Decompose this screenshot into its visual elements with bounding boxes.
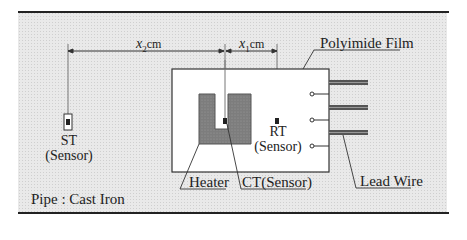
lead-wire-label: Lead Wire	[360, 174, 423, 189]
st-label: ST (Sensor)	[44, 134, 94, 163]
st-type: (Sensor)	[44, 149, 94, 163]
st-name: ST	[44, 134, 94, 148]
heater-label: Heater	[189, 175, 229, 190]
dimension-label-x1: x1cm	[239, 37, 264, 54]
rt-type: (Sensor)	[252, 140, 304, 154]
polyimide-film-label: Polyimide Film	[320, 36, 414, 51]
x1-unit: cm	[250, 37, 265, 51]
st-sensor	[64, 114, 72, 130]
pipe-material-label: Pipe : Cast Iron	[31, 192, 125, 207]
lead-wires	[329, 80, 368, 135]
dimension-label-x2: x2cm	[136, 37, 161, 54]
rt-name: RT	[252, 125, 304, 139]
x2-unit: cm	[147, 37, 162, 51]
ct-sensor-label: CT(Sensor)	[242, 175, 312, 190]
rt-label: RT (Sensor)	[252, 125, 304, 154]
ct-sensor	[223, 118, 227, 124]
